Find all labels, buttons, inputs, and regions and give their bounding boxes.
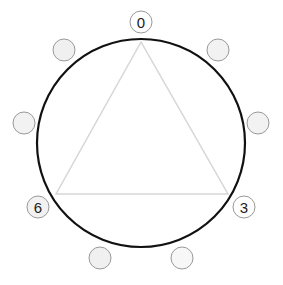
main-circle [37,39,245,247]
node-label: 6 [34,199,42,216]
triangle [56,42,228,194]
node-empty [207,39,229,61]
node-empty [247,112,269,134]
node-label: 3 [240,199,248,216]
node-empty [171,247,193,269]
node-empty [13,112,35,134]
node-empty [89,247,111,269]
node-0: 0 [130,11,152,33]
node-label: 0 [137,14,145,31]
node-3: 3 [233,196,255,218]
node-6: 6 [27,196,49,218]
clock-diagram: 0 3 6 [0,0,283,285]
node-empty [53,39,75,61]
